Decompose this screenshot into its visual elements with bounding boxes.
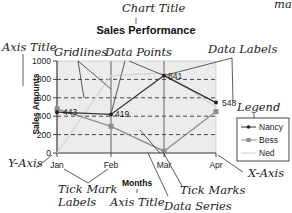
callout-data-series: Data Series [163,199,232,213]
y-axis-title: Sales Amounts [31,73,41,134]
callout-data-labels: Data Labels [207,42,278,56]
callout-cut-off: mar [274,0,292,11]
chart-title: Sales Performance [96,24,195,36]
legend: Nancy Bess Ned [237,118,289,161]
chart-diagram: 1000 800 600 400 200 0 Jan Feb Mar Apr 4… [0,0,292,213]
callout-gridlines: Gridlines [54,45,107,59]
y-tick-1000: 1000 [32,56,51,66]
callout-y-axis: Y-Axis [8,156,43,170]
legend-bess: Bess [259,135,278,145]
legend-ned: Ned [259,148,275,158]
callout-chart-title: Chart Title [122,1,185,15]
callout-axis-title-y: Axis Title [1,40,57,54]
callout-tick-mark-labels-2: Labels [57,195,96,209]
callout-legend: Legend [236,100,280,114]
callout-data-points: Data Points [104,45,172,59]
x-tick-marks [57,153,216,157]
x-tick-mar: Mar [157,160,172,170]
data-label-feb: 419 [115,109,129,119]
data-label-apr: 548 [222,98,236,108]
x-tick-feb: Feb [104,160,119,170]
x-tick-labels: Jan Feb Mar Apr [50,160,223,170]
data-label-jan: 443 [63,107,77,117]
callout-axis-title-x: Axis Title [109,195,165,209]
callout-tick-marks: Tick Marks [180,183,246,197]
callout-x-axis: X-Axis [247,166,284,180]
data-label-mar: 841 [168,71,182,81]
x-axis-title: Months [122,178,152,188]
x-tick-jan: Jan [50,160,64,170]
legend-nancy: Nancy [259,122,284,132]
x-tick-apr: Apr [209,160,222,170]
callout-tick-mark-labels-1: Tick Mark [58,182,118,196]
